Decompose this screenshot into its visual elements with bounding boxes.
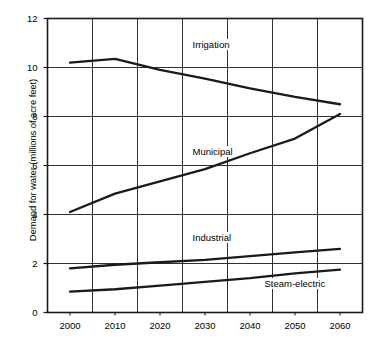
x-tick-label: 2050	[272, 320, 318, 331]
x-tick-label: 2000	[47, 320, 93, 331]
series-label-industrial: Industrial	[192, 232, 233, 243]
x-tick-label: 2040	[227, 320, 273, 331]
y-tick-label: 10	[16, 63, 38, 73]
x-tick-label: 2010	[92, 320, 138, 331]
plot-area	[0, 0, 383, 351]
x-tick-label: 2020	[137, 320, 183, 331]
y-tick-label: 8	[16, 112, 38, 122]
y-tick-label: 2	[16, 259, 38, 269]
x-tick-label: 2060	[317, 320, 363, 331]
water-demand-line-chart: Demand for water (millions of acre feet)…	[0, 0, 383, 351]
x-tick-label: 2030	[182, 320, 228, 331]
series-label-municipal: Municipal	[192, 146, 234, 157]
y-tick-label: 4	[16, 210, 38, 220]
y-tick-label: 6	[16, 161, 38, 171]
series-label-steam-electric: Steam-electric	[264, 278, 327, 289]
series-label-irrigation: Irrigation	[192, 39, 231, 50]
y-tick-label: 0	[16, 308, 38, 318]
y-tick-label: 12	[16, 14, 38, 24]
